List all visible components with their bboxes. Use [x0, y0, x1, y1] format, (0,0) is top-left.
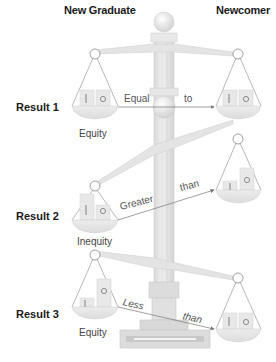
header-new-graduate: New Graduate [64, 4, 136, 16]
result-3-label: Result 3 [16, 308, 59, 320]
header-newcomer: Newcomer [216, 4, 270, 16]
outcome-result-1: Equity [79, 128, 107, 139]
pan-r3-right [216, 273, 261, 342]
relation-equal: Equal [124, 93, 150, 104]
result-1-label: Result 1 [16, 101, 59, 113]
outcome-result-2: Inequity [77, 236, 112, 247]
relation-to: to [184, 93, 192, 104]
pan-r3-left [72, 250, 118, 319]
pan-r1-left [72, 49, 118, 119]
pan-r2-left [72, 181, 118, 233]
pan-r1-right [216, 49, 261, 119]
result-2-label: Result 2 [16, 210, 59, 222]
pan-r2-right [216, 134, 261, 203]
equity-theory-diagram: New Graduate Newcomer Result 1 Result 2 … [0, 0, 276, 362]
outcome-result-3: Equity [79, 327, 107, 338]
